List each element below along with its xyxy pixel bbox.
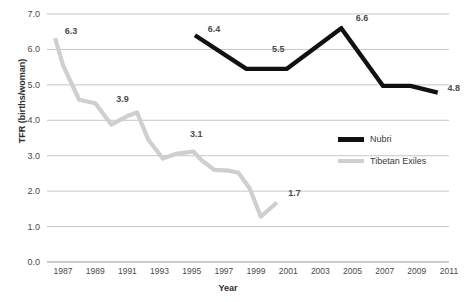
legend-label-tibetan-exiles: Tibetan Exiles bbox=[370, 156, 426, 166]
data-label: 6.4 bbox=[208, 24, 221, 34]
legend-swatch-tibetan-exiles bbox=[338, 159, 364, 163]
data-label: 3.9 bbox=[116, 94, 129, 104]
data-label: 1.7 bbox=[288, 188, 301, 198]
series-line-nubri bbox=[195, 28, 438, 92]
data-label: 4.8 bbox=[447, 83, 460, 93]
legend-label-nubri: Nubri bbox=[370, 134, 392, 144]
data-label: 3.1 bbox=[190, 129, 203, 139]
legend-item-tibetan-exiles: Tibetan Exiles bbox=[338, 150, 456, 172]
legend-swatch-nubri bbox=[338, 137, 364, 142]
data-label: 6.6 bbox=[356, 13, 369, 23]
chart-legend: Nubri Tibetan Exiles bbox=[338, 128, 456, 172]
data-label: 5.5 bbox=[272, 44, 285, 54]
data-label: 6.3 bbox=[65, 26, 78, 36]
legend-item-nubri: Nubri bbox=[338, 128, 456, 150]
